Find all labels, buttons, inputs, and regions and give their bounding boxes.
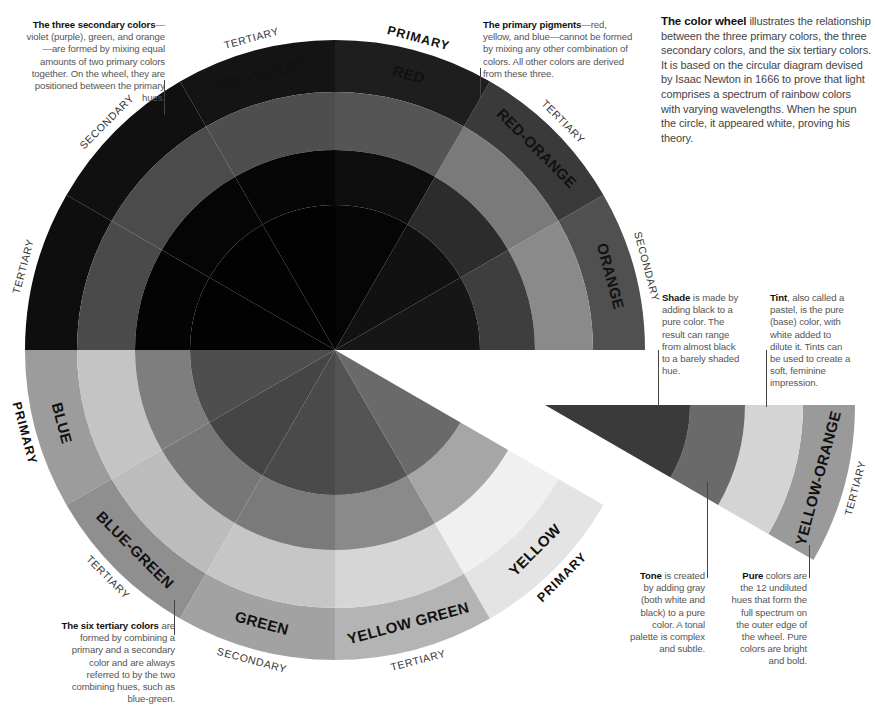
tint-leader-line [766,350,767,407]
tertiary-note-body: are formed by combining a primary and a … [72,620,175,704]
tint-note-title: Tint [770,292,787,303]
tertiary-note-title: The six tertiary colors [61,620,158,631]
primary-pigments-note: The primary pigments—red, yellow, and bl… [483,19,633,80]
secondary-note-title: The three secondary colors [33,19,156,30]
tone-note: Tone is created by adding gray (both whi… [630,570,705,655]
intro-body: illustrates the relationship between the… [661,15,871,144]
tone-leader-line [707,482,708,578]
color-wheel-intro: The color wheel illustrates the relation… [661,14,871,145]
shade-note-body: is made by adding black to a pure color.… [662,292,739,376]
tertiary-colors-note: The six tertiary colors are formed by co… [55,620,175,705]
secondary-note-body: —violet (purple), green, and orange—are … [27,19,165,103]
primary-leader-line [480,68,481,98]
shade-note: Shade is made by adding black to a pure … [662,292,744,377]
tint-note: Tint, also called a pastel, is the pure … [770,292,855,390]
pure-leader-line [809,545,810,578]
tint-note-body: , also called a pastel, is the pure (bas… [770,292,850,388]
tone-note-body: is created by adding gray (both white an… [630,570,705,654]
primary-note-title: The primary pigments [483,19,581,30]
shade-leader-line [658,350,659,407]
yellow-orange-shade-ring [545,405,690,478]
pure-note-title: Pure [742,570,763,581]
pure-note-body: colors are the 12 undiluted hues that fo… [731,570,807,666]
pure-note: Pure colors are the 12 undiluted hues th… [727,570,807,668]
tertiary-leader-line [174,600,175,635]
tone-note-title: Tone [640,570,662,581]
secondary-colors-note: The three secondary colors—violet (purpl… [20,19,165,104]
intro-title: The color wheel [661,15,746,27]
secondary-leader-line [164,80,165,115]
shade-note-title: Shade [662,292,690,303]
